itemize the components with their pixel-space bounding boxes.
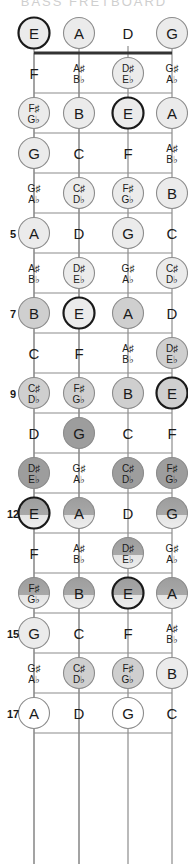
fret-number-17: 17 bbox=[7, 708, 19, 720]
note-marker[interactable]: C bbox=[74, 625, 85, 642]
note-marker[interactable]: G bbox=[113, 698, 144, 729]
note-label-sharp: F♯ bbox=[122, 663, 133, 674]
note-marker[interactable]: E bbox=[64, 298, 95, 329]
note-label: C bbox=[123, 425, 134, 442]
note-marker[interactable]: A♯B♭ bbox=[166, 143, 178, 165]
note-marker[interactable]: G bbox=[19, 138, 50, 169]
note-label-flat: E♭ bbox=[122, 554, 134, 565]
note-marker[interactable]: E bbox=[19, 18, 50, 49]
fret-number-15: 15 bbox=[7, 628, 19, 640]
note-marker[interactable]: F bbox=[29, 65, 38, 82]
note-marker[interactable]: B bbox=[113, 378, 144, 409]
note-marker[interactable]: A bbox=[19, 218, 50, 249]
note-marker[interactable]: G bbox=[19, 618, 50, 649]
note-marker[interactable]: G bbox=[157, 498, 188, 529]
note-marker[interactable]: G♯A♭ bbox=[166, 543, 179, 565]
note-marker[interactable]: C♯D♭ bbox=[64, 658, 95, 689]
note-marker[interactable]: B bbox=[19, 298, 50, 329]
note-marker[interactable]: D bbox=[167, 305, 178, 322]
note-marker[interactable]: F♯G♭ bbox=[64, 378, 95, 409]
note-marker[interactable]: C♯D♭ bbox=[19, 378, 50, 409]
note-marker[interactable]: B bbox=[64, 98, 95, 129]
note-marker[interactable]: E bbox=[113, 98, 144, 129]
fret-number-5: 5 bbox=[10, 228, 16, 240]
note-marker[interactable]: G bbox=[113, 218, 144, 249]
note-marker[interactable]: D♯E♭ bbox=[19, 458, 50, 489]
note-label: B bbox=[74, 585, 84, 602]
note-marker[interactable]: B bbox=[64, 578, 95, 609]
note-marker[interactable]: D♯E♭ bbox=[113, 538, 144, 569]
note-marker[interactable]: G♯A♭ bbox=[166, 63, 179, 85]
note-marker[interactable]: F bbox=[167, 425, 176, 442]
fret-number-7: 7 bbox=[10, 308, 16, 320]
note-marker[interactable]: D♯E♭ bbox=[113, 58, 144, 89]
note-marker[interactable]: B bbox=[157, 658, 188, 689]
note-marker[interactable]: A♯B♭ bbox=[73, 543, 85, 565]
note-label-sharp: C♯ bbox=[122, 463, 134, 474]
note-marker[interactable]: C bbox=[29, 345, 40, 362]
fretboard-svg: BASS FRETBOARD EADGFA♯B♭D♯E♭G♯A♭F♯G♭BEAG… bbox=[0, 0, 188, 864]
note-marker[interactable]: A bbox=[157, 578, 188, 609]
note-marker[interactable]: D bbox=[74, 225, 85, 242]
note-marker[interactable]: G♯A♭ bbox=[73, 463, 86, 485]
note-label: B bbox=[123, 385, 133, 402]
note-label: A bbox=[74, 25, 84, 42]
note-marker[interactable]: A♯B♭ bbox=[73, 63, 85, 85]
note-marker[interactable]: C♯D♭ bbox=[113, 458, 144, 489]
note-marker[interactable]: F♯G♭ bbox=[113, 178, 144, 209]
note-label-sharp: F♯ bbox=[73, 383, 84, 394]
note-marker[interactable]: A♯B♭ bbox=[28, 263, 40, 285]
note-marker[interactable]: F bbox=[74, 345, 83, 362]
note-marker[interactable]: C♯D♭ bbox=[64, 178, 95, 209]
note-marker[interactable]: F♯G♭ bbox=[19, 578, 50, 609]
note-label-sharp: G♯ bbox=[122, 263, 135, 274]
note-marker[interactable]: G bbox=[157, 18, 188, 49]
note-marker[interactable]: C bbox=[167, 705, 178, 722]
note-label: E bbox=[74, 305, 84, 322]
note-marker[interactable]: D♯E♭ bbox=[64, 258, 95, 289]
note-marker[interactable]: G♯A♭ bbox=[28, 663, 41, 685]
note-marker[interactable]: C bbox=[74, 145, 85, 162]
note-marker[interactable]: A♯B♭ bbox=[122, 343, 134, 365]
note-marker[interactable]: B bbox=[157, 178, 188, 209]
note-marker[interactable]: D bbox=[74, 705, 85, 722]
note-label: G bbox=[166, 505, 178, 522]
note-label-sharp: C♯ bbox=[73, 663, 85, 674]
note-marker[interactable]: F♯G♭ bbox=[157, 458, 188, 489]
note-marker[interactable]: G♯A♭ bbox=[28, 183, 41, 205]
note-marker[interactable]: G♯A♭ bbox=[122, 263, 135, 285]
note-marker[interactable]: C bbox=[167, 225, 178, 242]
note-marker[interactable]: G bbox=[64, 418, 95, 449]
note-label-flat: A♭ bbox=[28, 194, 40, 205]
note-marker[interactable]: F bbox=[123, 145, 132, 162]
note-marker[interactable]: A♯B♭ bbox=[166, 623, 178, 645]
note-marker[interactable]: A bbox=[64, 18, 95, 49]
note-marker[interactable]: F bbox=[123, 625, 132, 642]
note-label-sharp: D♯ bbox=[166, 343, 178, 354]
note-marker[interactable]: D bbox=[29, 425, 40, 442]
note-marker[interactable]: D♯E♭ bbox=[157, 338, 188, 369]
note-label: D bbox=[123, 25, 134, 42]
note-label-sharp: A♯ bbox=[166, 143, 178, 154]
note-marker[interactable]: A bbox=[64, 498, 95, 529]
note-label: E bbox=[123, 105, 133, 122]
note-marker[interactable]: A bbox=[19, 698, 50, 729]
note-label-flat: G♭ bbox=[28, 594, 41, 605]
note-label-sharp: D♯ bbox=[122, 63, 134, 74]
note-marker[interactable]: F♯G♭ bbox=[19, 98, 50, 129]
note-marker[interactable]: E bbox=[113, 578, 144, 609]
note-marker[interactable]: D bbox=[123, 505, 134, 522]
note-label-flat: B♭ bbox=[73, 74, 85, 85]
note-marker[interactable]: F bbox=[29, 545, 38, 562]
note-marker[interactable]: E bbox=[157, 378, 188, 409]
note-marker[interactable]: A bbox=[113, 298, 144, 329]
note-marker[interactable]: C♯D♭ bbox=[157, 258, 188, 289]
note-label-flat: D♭ bbox=[73, 194, 85, 205]
note-marker[interactable]: D bbox=[123, 25, 134, 42]
note-marker[interactable]: E bbox=[19, 498, 50, 529]
note-marker[interactable]: A bbox=[157, 98, 188, 129]
note-label-flat: A♭ bbox=[28, 674, 40, 685]
note-marker[interactable]: F♯G♭ bbox=[113, 658, 144, 689]
note-label-flat: D♭ bbox=[28, 394, 40, 405]
note-marker[interactable]: C bbox=[123, 425, 134, 442]
